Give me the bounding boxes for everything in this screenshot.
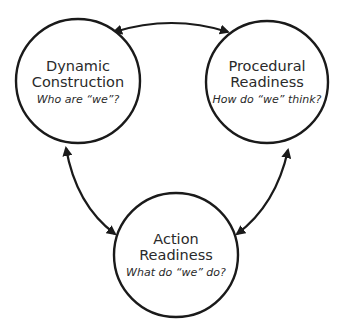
node-subtitle: What do “we” do? — [126, 266, 226, 279]
edge-dynamic-action — [66, 148, 115, 234]
node-procedural-readiness: Procedural Readiness How do “we” think? — [206, 21, 328, 143]
edge-procedural-action — [237, 150, 288, 234]
cycle-diagram: Dynamic Construction Who are “we”? Proce… — [0, 0, 337, 334]
node-action-readiness: Action Readiness What do “we” do? — [114, 193, 238, 317]
node-title-line2: Readiness — [230, 74, 304, 90]
node-title-line2: Readiness — [139, 247, 213, 263]
edge-dynamic-procedural — [114, 23, 228, 32]
node-title-line2: Construction — [32, 74, 124, 90]
node-title-line1: Dynamic — [46, 58, 110, 74]
node-subtitle: How do “we” think? — [213, 93, 322, 106]
node-dynamic-construction: Dynamic Construction Who are “we”? — [16, 19, 140, 143]
node-title-line1: Procedural — [228, 58, 305, 74]
node-subtitle: Who are “we”? — [37, 93, 120, 106]
node-title-line1: Action — [153, 231, 198, 247]
